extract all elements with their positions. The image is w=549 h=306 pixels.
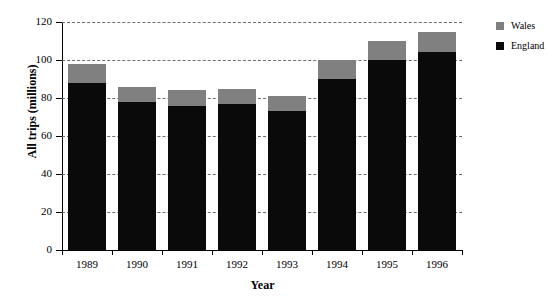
bar-segment-wales (218, 89, 256, 104)
legend-item-england: England (496, 40, 544, 51)
y-axis-title: All trips (millions) (25, 32, 40, 192)
x-tick-mark (62, 250, 63, 255)
bar-segment-wales (368, 41, 406, 60)
x-tick-mark (112, 250, 113, 255)
x-axis-title: Year (62, 278, 463, 293)
x-tick-mark (162, 250, 163, 255)
plot-area (62, 22, 462, 250)
bar-1996 (418, 32, 456, 251)
bar-segment-wales (68, 64, 106, 83)
y-tick-mark (56, 212, 62, 213)
bar-1989 (68, 64, 106, 250)
bar-segment-england (118, 102, 156, 250)
bar-segment-wales (168, 90, 206, 105)
x-tick-label-1996: 1996 (414, 258, 460, 270)
legend-swatch-wales (496, 22, 504, 30)
bar-1992 (218, 89, 256, 251)
y-tick-label: 20 (18, 205, 52, 217)
legend-label-wales: Wales (511, 21, 535, 31)
bar-segment-wales (118, 87, 156, 102)
x-tick-mark (212, 250, 213, 255)
bar-1993 (268, 96, 306, 250)
bar-segment-wales (268, 96, 306, 111)
bar-segment-england (368, 60, 406, 250)
bar-1991 (168, 90, 206, 250)
y-tick-mark (56, 174, 62, 175)
x-tick-label-1990: 1990 (114, 258, 160, 270)
bar-segment-england (168, 106, 206, 250)
bar-segment-england (218, 104, 256, 250)
chart-legend: WalesEngland (496, 20, 544, 60)
y-tick-mark (56, 98, 62, 99)
bar-segment-england (68, 83, 106, 250)
y-tick-label: 0 (18, 243, 52, 255)
bar-segment-england (268, 111, 306, 250)
legend-label-england: England (511, 41, 544, 51)
y-tick-label: 120 (18, 15, 52, 27)
bar-segment-england (418, 52, 456, 250)
x-tick-label-1993: 1993 (264, 258, 310, 270)
x-tick-mark (362, 250, 363, 255)
legend-item-wales: Wales (496, 20, 544, 31)
x-tick-label-1992: 1992 (214, 258, 260, 270)
x-tick-label-1991: 1991 (164, 258, 210, 270)
x-tick-label-1995: 1995 (364, 258, 410, 270)
x-tick-mark (262, 250, 263, 255)
bar-segment-wales (318, 60, 356, 79)
x-tick-label-1994: 1994 (314, 258, 360, 270)
y-tick-mark (56, 136, 62, 137)
legend-swatch-england (496, 42, 504, 50)
x-tick-mark (412, 250, 413, 255)
y-tick-mark (56, 22, 62, 23)
bar-segment-wales (418, 32, 456, 53)
bar-segment-england (318, 79, 356, 250)
y-tick-mark (56, 60, 62, 61)
x-tick-mark (312, 250, 313, 255)
x-tick-label-1989: 1989 (64, 258, 110, 270)
bar-1995 (368, 41, 406, 250)
x-tick-mark (462, 250, 463, 255)
stacked-bar-chart: 020406080100120 198919901991199219931994… (0, 0, 549, 306)
gridline (62, 22, 462, 23)
bar-1994 (318, 60, 356, 250)
bar-1990 (118, 87, 156, 250)
